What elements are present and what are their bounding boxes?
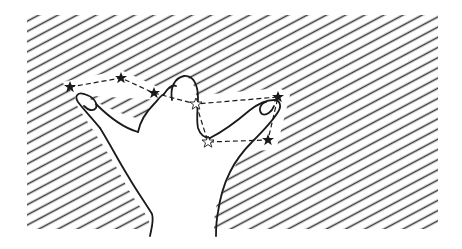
hand-constellation-illustration bbox=[0, 0, 462, 249]
illustration-svg bbox=[0, 0, 462, 249]
